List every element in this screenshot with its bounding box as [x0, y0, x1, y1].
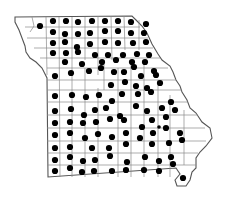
- county-dot: [67, 130, 73, 136]
- county-dot: [168, 154, 174, 160]
- county-dot: [115, 18, 121, 24]
- county-dot: [149, 141, 155, 147]
- county-dot: [124, 159, 130, 165]
- county-dot: [157, 80, 163, 86]
- county-dot: [92, 157, 98, 163]
- county-dot: [113, 57, 119, 63]
- county-dot: [52, 108, 58, 114]
- county-dot: [107, 116, 113, 122]
- county-dot: [89, 145, 95, 151]
- county-dot: [82, 135, 88, 141]
- county-dot: [67, 154, 73, 160]
- county-dot: [92, 107, 98, 113]
- county-dot: [67, 165, 73, 171]
- county-dot: [107, 153, 113, 159]
- county-dot: [37, 23, 43, 29]
- county-dot: [63, 50, 69, 56]
- map-canvas: [0, 0, 231, 197]
- county-dot: [146, 52, 152, 58]
- county-dot: [50, 50, 56, 56]
- county-dot: [50, 18, 56, 24]
- county-dot: [156, 158, 162, 164]
- county-dot: [67, 119, 73, 125]
- county-dot: [148, 89, 154, 95]
- county-dot: [128, 30, 134, 36]
- county-dot: [93, 119, 99, 125]
- county-dot: [98, 65, 104, 71]
- county-dot: [168, 99, 174, 105]
- county-dot: [163, 125, 169, 131]
- county-dot: [79, 61, 85, 67]
- county-dot: [62, 31, 68, 37]
- county-dot: [128, 19, 134, 25]
- county-dot: [80, 158, 86, 164]
- county-dot: [52, 145, 58, 151]
- county-dot: [89, 18, 95, 24]
- county-dot: [141, 30, 147, 36]
- county-dot: [87, 30, 93, 36]
- county-dot: [137, 135, 143, 141]
- county-dot: [102, 28, 108, 34]
- county-dot-small: [157, 125, 161, 129]
- county-dot: [131, 64, 137, 70]
- county-dot: [134, 51, 140, 57]
- county-dot: [109, 168, 115, 174]
- county-dot: [139, 124, 145, 130]
- county-dot: [142, 59, 148, 65]
- county-dot: [63, 18, 69, 24]
- county-dot: [156, 168, 162, 174]
- county-dot: [96, 92, 102, 98]
- county-dot: [75, 19, 81, 25]
- county-dot: [142, 154, 148, 160]
- county-dot: [143, 21, 149, 27]
- county-dot: [52, 157, 58, 163]
- county-dot: [135, 91, 141, 97]
- county-dot: [52, 93, 58, 99]
- county-dot: [153, 72, 159, 78]
- county-dot: [75, 49, 81, 55]
- county-dot: [80, 120, 86, 126]
- county-dot: [102, 39, 108, 45]
- county-dot: [172, 107, 178, 113]
- county-dot: [159, 105, 165, 111]
- county-dot: [91, 168, 97, 174]
- county-dot: [81, 112, 87, 118]
- county-dot: [102, 18, 108, 24]
- county-dot: [149, 117, 155, 123]
- county-dot: [67, 144, 73, 150]
- county-dot: [121, 69, 127, 75]
- county-dot: [108, 82, 114, 88]
- county-dot: [52, 120, 58, 126]
- county-dot: [99, 59, 105, 65]
- county-dot: [150, 130, 156, 136]
- county-dot: [87, 41, 93, 47]
- county-dot: [170, 161, 176, 167]
- county-dot: [133, 103, 139, 109]
- county-dot: [123, 141, 129, 147]
- county-dot: [95, 131, 101, 137]
- county-dot: [143, 39, 149, 45]
- county-dot: [83, 94, 89, 100]
- county-dot: [62, 59, 68, 65]
- county-dot: [141, 167, 147, 173]
- county-dot: [115, 28, 121, 34]
- county-dot: [119, 91, 125, 97]
- county-dot: [163, 114, 169, 120]
- missouri-county-map: [0, 0, 231, 197]
- county-dot: [123, 130, 129, 136]
- county-dot: [123, 167, 129, 173]
- county-dot: [106, 145, 112, 151]
- county-dot: [179, 137, 185, 143]
- county-dot: [69, 92, 75, 98]
- county-dot: [62, 39, 68, 45]
- county-dot: [52, 168, 58, 174]
- county-dot: [68, 70, 74, 76]
- county-dot: [109, 134, 115, 140]
- county-dot: [133, 83, 139, 89]
- county-dot: [75, 31, 81, 37]
- county-dot: [86, 68, 92, 74]
- county-dot: [52, 73, 58, 79]
- county-dot: [109, 98, 115, 104]
- county-dot: [130, 40, 136, 46]
- county-dot: [138, 73, 144, 79]
